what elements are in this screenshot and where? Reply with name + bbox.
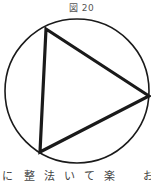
circumscribed-circle — [5, 19, 149, 163]
caption-char: お — [143, 167, 151, 183]
caption-char: 整 — [24, 167, 35, 183]
caption-char: い — [64, 167, 75, 183]
circle-triangle-diagram — [0, 0, 151, 165]
caption-char: 法 — [44, 167, 55, 183]
inscribed-triangle — [40, 29, 149, 152]
caption-char: て — [84, 167, 95, 183]
caption-char: に — [2, 167, 13, 183]
caption-text: に 整 法 い て 楽 お — [0, 167, 151, 185]
caption-char: 楽 — [104, 167, 115, 183]
